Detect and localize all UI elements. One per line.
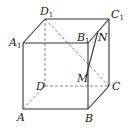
label-A1: A1 (8, 36, 21, 50)
label-M: M (76, 72, 89, 85)
label-B: B (84, 112, 93, 125)
label-C1: C1 (111, 8, 124, 22)
label-B1: B1 (76, 31, 90, 45)
cube-diagram: D1 C1 A1 B1 N M D C A B (0, 0, 129, 133)
edge-D1A1 (23, 19, 45, 43)
label-A: A (16, 111, 25, 124)
label-C: C (112, 80, 121, 93)
label-D: D (35, 80, 45, 93)
label-D1: D1 (39, 5, 53, 19)
edge-BC (88, 86, 109, 109)
label-N: N (97, 31, 108, 44)
